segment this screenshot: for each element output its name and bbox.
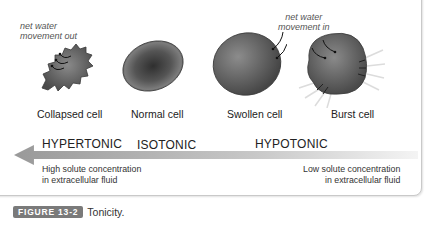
water-in-line-1: net water (278, 12, 330, 22)
low-concentration-line-2: in extracellular fluid (303, 175, 400, 186)
swollen-cell-label: Swollen cell (227, 108, 282, 120)
collapsed-cell-label: Collapsed cell (37, 108, 102, 120)
collapsed-cell-illustration (38, 38, 96, 96)
burst-cell-illustration (295, 28, 385, 108)
low-concentration-line-1: Low solute concentration (303, 164, 400, 175)
figure-caption-text: Tonicity. (87, 206, 124, 218)
figure-caption: FIGURE 13-2 Tonicity. (13, 206, 124, 218)
water-out-line-1: net water (20, 21, 77, 31)
high-concentration-line-2: in extracellular fluid (42, 175, 141, 186)
tonicity-gradient-arrow (14, 145, 418, 165)
high-concentration-label: High solute concentration in extracellul… (42, 164, 141, 186)
normal-cell-illustration (120, 38, 186, 94)
burst-cell-label: Burst cell (331, 108, 374, 120)
figure-number-badge: FIGURE 13-2 (13, 206, 83, 218)
high-concentration-line-1: High solute concentration (42, 164, 141, 175)
normal-cell-label: Normal cell (131, 108, 184, 120)
swollen-cell-illustration (211, 28, 287, 98)
low-concentration-label: Low solute concentration in extracellula… (303, 164, 400, 186)
